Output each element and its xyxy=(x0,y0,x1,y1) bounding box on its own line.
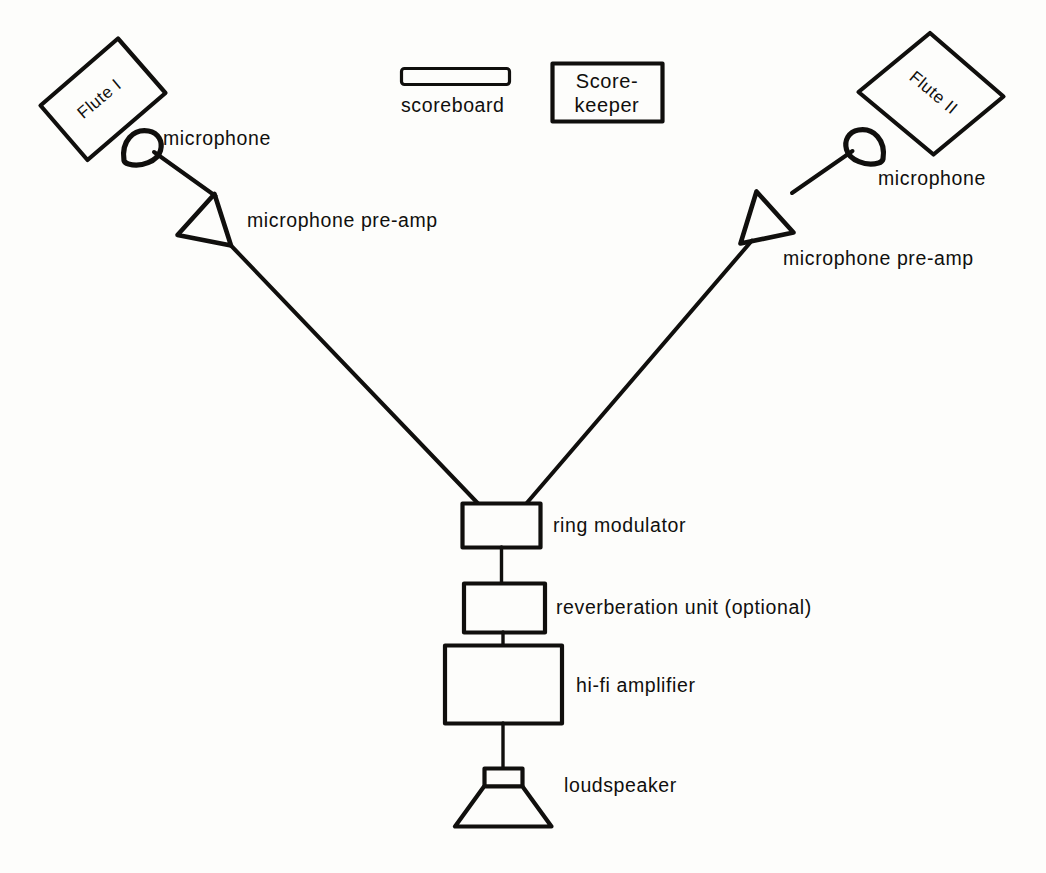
reverberation-unit-box[interactable] xyxy=(464,584,545,633)
scorekeeper-label-line-1: Score- xyxy=(576,70,639,92)
wire-left-preamp-to-ring-modulator xyxy=(230,244,480,505)
microphone-right-label: microphone xyxy=(878,167,986,189)
preamp-right-icon[interactable] xyxy=(741,192,794,244)
diagram-canvas: Flute I microphone microphone pre-amp sc… xyxy=(0,0,1046,873)
scoreboard-label: scoreboard xyxy=(401,94,505,116)
loudspeaker-label: loudspeaker xyxy=(564,774,677,796)
preamp-left-label: microphone pre-amp xyxy=(247,209,438,231)
wire-right-preamp-to-ring-modulator xyxy=(526,241,753,505)
signal-flow-diagram: Flute I microphone microphone pre-amp sc… xyxy=(0,0,1046,873)
ring-modulator-box[interactable] xyxy=(463,504,541,548)
reverberation-unit-label: reverberation unit (optional) xyxy=(556,596,812,618)
loudspeaker-icon[interactable] xyxy=(455,769,552,827)
scorekeeper-label-line-2: keeper xyxy=(575,94,640,116)
scoreboard-icon[interactable] xyxy=(402,69,510,85)
hifi-amplifier-box[interactable] xyxy=(445,646,562,724)
scorekeeper-box[interactable]: Score- keeper xyxy=(553,64,663,122)
hifi-amplifier-label: hi-fi amplifier xyxy=(576,674,696,696)
ring-modulator-label: ring modulator xyxy=(553,514,686,536)
preamp-right-label: microphone pre-amp xyxy=(783,247,974,269)
preamp-left-icon[interactable] xyxy=(178,194,232,246)
microphone-left-label: microphone xyxy=(163,127,271,149)
microphone-right-icon[interactable] xyxy=(792,130,883,193)
